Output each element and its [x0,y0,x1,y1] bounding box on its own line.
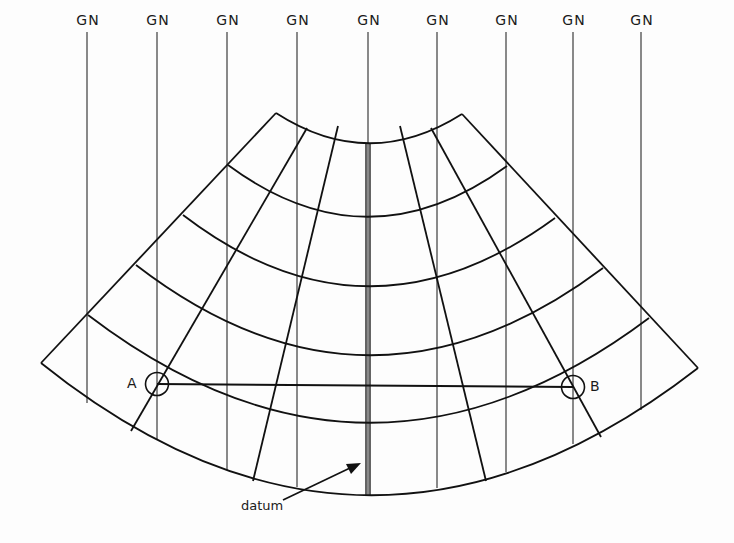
gn-label: GN [495,12,518,28]
ab-line [157,384,573,387]
datum-label: datum [241,498,283,513]
parallel-top [276,113,462,143]
grid-north-lines [87,32,641,496]
meridian-right-1 [400,126,486,481]
gn-label: GN [76,12,99,28]
diagram-canvas: GN GN GN GN GN GN GN GN GN A B datum [0,0,734,543]
point-b-label: B [590,378,600,394]
meridian-right-2 [431,128,601,437]
line-a-b [146,373,585,399]
arrow-head-icon [346,463,361,474]
gn-label: GN [426,12,449,28]
gn-label: GN [357,12,380,28]
gn-label: GN [216,12,239,28]
datum-arrow-shaft [283,468,350,500]
gn-label: GN [630,12,653,28]
gn-label: GN [286,12,309,28]
point-a-label: A [127,375,137,391]
projection-grid [0,0,734,543]
gn-label: GN [562,12,585,28]
meridian-left-edge [41,113,276,363]
gn-label: GN [146,12,169,28]
meridian-left-1 [253,126,338,481]
